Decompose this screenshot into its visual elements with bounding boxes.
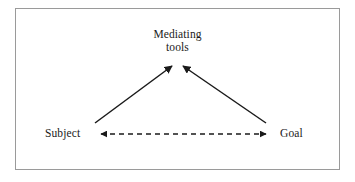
node-label-mediating-tools-line2: tools <box>0 41 355 54</box>
figure-root: Mediating tools Subject Goal <box>0 0 355 182</box>
node-label-mediating-tools-line1: Mediating <box>0 28 355 41</box>
node-label-mediating-tools: Mediating tools <box>0 28 355 54</box>
node-label-subject: Subject <box>45 127 80 140</box>
node-label-goal: Goal <box>280 127 303 140</box>
